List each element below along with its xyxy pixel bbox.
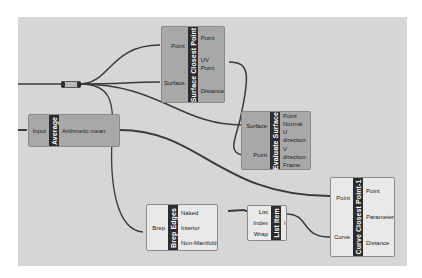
input-point[interactable]: Point bbox=[336, 194, 350, 202]
output-item[interactable]: i bbox=[284, 219, 285, 227]
input-point[interactable]: Point bbox=[253, 151, 267, 159]
input-index[interactable]: Index bbox=[253, 219, 268, 227]
output-point[interactable]: Point bbox=[283, 112, 297, 120]
input-wrap[interactable]: Wrap bbox=[254, 230, 268, 238]
output-non-manifold[interactable]: Non-Manifold bbox=[181, 239, 217, 247]
output-uv-point[interactable]: UV Point bbox=[201, 56, 224, 72]
input-input[interactable]: Input bbox=[33, 127, 46, 135]
output-distance[interactable]: Distance bbox=[201, 87, 224, 95]
output-interior[interactable]: Interior bbox=[181, 224, 200, 232]
output-u-direction[interactable]: U direction bbox=[283, 128, 310, 144]
average-component[interactable]: Input Average Arithmetic mean bbox=[28, 114, 120, 147]
output-normal[interactable]: Normal bbox=[283, 120, 302, 128]
input-curve[interactable]: Curve bbox=[334, 233, 350, 241]
output-frame[interactable]: Frame bbox=[283, 161, 300, 169]
output-arithmetic-mean[interactable]: Arithmetic mean bbox=[62, 127, 105, 135]
output-parameter[interactable]: Parameter bbox=[366, 213, 394, 221]
list-item-component[interactable]: List Index Wrap List Item i bbox=[247, 205, 287, 241]
output-point[interactable]: Point bbox=[366, 187, 380, 195]
component-title: Surface Closest Point bbox=[188, 27, 198, 102]
input-list[interactable]: List bbox=[259, 208, 268, 216]
input-surface[interactable]: Surface bbox=[164, 79, 185, 87]
output-distance[interactable]: Distance bbox=[366, 239, 389, 247]
component-title: List Item bbox=[271, 206, 281, 240]
output-point[interactable]: Point bbox=[201, 34, 215, 42]
curve-closest-point-component[interactable]: Point Curve Curve Closest Point-1 Point … bbox=[330, 177, 395, 257]
evaluate-surface-component[interactable]: Surface Point Evaluate Surface Point Nor… bbox=[241, 111, 311, 170]
wire-relay[interactable] bbox=[62, 81, 80, 88]
brep-edges-component[interactable]: Brep Brep Edges Naked Interior Non-Manif… bbox=[146, 204, 218, 251]
output-naked[interactable]: Naked bbox=[181, 209, 198, 217]
component-title: Average bbox=[49, 115, 59, 146]
surface-closest-point-component[interactable]: Point Surface Surface Closest Point Poin… bbox=[161, 26, 225, 103]
output-v-direction[interactable]: V direction bbox=[283, 145, 310, 161]
component-title: Evaluate Surface bbox=[270, 112, 280, 169]
component-title: Brep Edges bbox=[168, 205, 178, 250]
component-title: Curve Closest Point-1 bbox=[353, 178, 363, 256]
input-surface[interactable]: Surface bbox=[246, 122, 267, 130]
input-point[interactable]: Point bbox=[171, 42, 185, 50]
input-brep[interactable]: Brep bbox=[152, 224, 165, 232]
